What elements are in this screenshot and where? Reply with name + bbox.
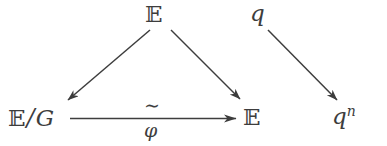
node-bottom-q-to-the-n: qn [332, 105, 356, 128]
arrow-e-to-e [171, 30, 240, 99]
node-bottom-n-exponent: n [347, 103, 356, 119]
arrow-e-to-eg [68, 30, 150, 100]
node-top-E: 𝔼 [145, 3, 163, 26]
quotient-slash-icon: / [26, 104, 36, 132]
node-bottom-E-base: 𝔼 [8, 105, 26, 131]
node-bottom-E: 𝔼 [243, 106, 261, 129]
node-bottom-G: G [36, 105, 54, 131]
commutative-diagram: 𝔼 q 𝔼/G 𝔼 qn ∼ φ [0, 0, 387, 146]
node-top-q: q [250, 2, 265, 25]
arrow-q-to-qn [268, 30, 337, 100]
node-bottom-q-base: q [332, 103, 347, 129]
phi-label: φ [144, 121, 157, 140]
tilde-iso-label: ∼ [144, 96, 160, 115]
node-bottom-E-mod-G: 𝔼/G [8, 106, 54, 130]
arrow-layer [0, 0, 387, 146]
